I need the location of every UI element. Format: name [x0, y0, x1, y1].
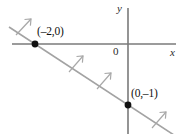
graph-canvas	[0, 0, 183, 134]
point-label-y-intercept: (0,–1)	[131, 88, 158, 100]
shading-arrow-1	[16, 19, 31, 35]
plot-point-b	[125, 102, 132, 109]
x-axis-label: x	[170, 47, 175, 58]
origin-label: 0	[113, 46, 119, 57]
plot-point-a	[32, 41, 39, 48]
shading-arrow-3	[97, 73, 111, 89]
point-label-x-intercept: (–2,0)	[37, 26, 64, 38]
shading-arrow-2	[69, 56, 83, 72]
y-axis-label: y	[117, 3, 122, 14]
coordinate-plane-figure: y x 0 (–2,0) (0,–1)	[0, 0, 183, 134]
